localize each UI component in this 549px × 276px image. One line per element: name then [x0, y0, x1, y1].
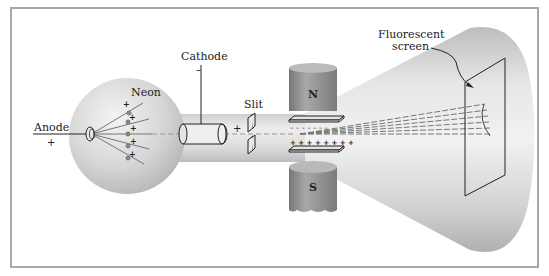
- screen-label-line2: screen: [392, 41, 429, 53]
- crt-diagram: [0, 0, 549, 276]
- north-pole-label: N: [308, 89, 318, 101]
- neon-label: Neon: [131, 87, 161, 99]
- ion-charge-1: +: [123, 100, 130, 110]
- ion-charge-3: +: [130, 124, 137, 134]
- anode-sign: +: [47, 138, 55, 148]
- magnet-north: [289, 58, 337, 111]
- upper-plate-charges: – – – – – – –: [290, 123, 328, 133]
- cathode-sign: –: [196, 65, 201, 75]
- ion-charge-2: +: [129, 113, 136, 123]
- slit-sign: +: [233, 124, 241, 134]
- cathode-label: Cathode: [181, 51, 228, 63]
- ion-charge-5: +: [129, 150, 136, 160]
- cathode-cylinder: [179, 124, 227, 144]
- lower-plate-charges: + + + + + + + +: [290, 138, 354, 148]
- south-pole-label: S: [309, 182, 317, 194]
- slit-label: Slit: [244, 99, 263, 111]
- anode-label: Anode: [34, 122, 69, 134]
- ion-charge-4: +: [130, 137, 137, 147]
